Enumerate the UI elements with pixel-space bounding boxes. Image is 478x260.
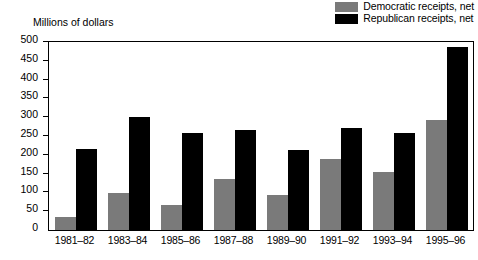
y-tick-label: 50 xyxy=(26,203,38,214)
bar-group xyxy=(314,42,367,230)
bar-republican xyxy=(447,47,468,230)
bar-republican xyxy=(76,149,97,230)
chart-legend: Democratic receipts, net Republican rece… xyxy=(335,1,474,24)
y-tick-label: 150 xyxy=(20,166,38,177)
x-tick-label: 1991–92 xyxy=(313,234,366,247)
x-tick-label: 1993–94 xyxy=(366,234,419,247)
bar-democratic xyxy=(55,217,76,230)
y-tick-label: 0 xyxy=(32,222,38,233)
y-axis-title: Millions of dollars xyxy=(33,16,114,28)
legend-item-republican: Republican receipts, net xyxy=(335,13,474,24)
bars-container xyxy=(49,42,473,230)
bar-republican xyxy=(341,128,362,230)
x-tick-label: 1995–96 xyxy=(419,234,472,247)
y-axis: 050100150200250300350400450500 xyxy=(0,41,48,229)
plot-area xyxy=(48,41,474,231)
bar-group xyxy=(367,42,420,230)
legend-swatch-democratic-icon xyxy=(335,2,358,12)
bar-group xyxy=(261,42,314,230)
y-tick-label: 400 xyxy=(20,72,38,83)
y-tick-label: 450 xyxy=(20,53,38,64)
bar-democratic xyxy=(108,193,129,230)
bar-republican xyxy=(394,133,415,230)
bar-chart-figure: Democratic receipts, net Republican rece… xyxy=(0,0,478,260)
y-tick-label: 200 xyxy=(20,147,38,158)
legend-label-republican: Republican receipts, net xyxy=(363,13,473,24)
bar-republican xyxy=(129,117,150,230)
y-tick-label: 300 xyxy=(20,109,38,120)
bar-republican xyxy=(182,133,203,230)
bar-democratic xyxy=(320,159,341,230)
y-tick-label: 100 xyxy=(20,184,38,195)
y-tick-label: 500 xyxy=(20,34,38,45)
legend-item-democratic: Democratic receipts, net xyxy=(335,1,474,12)
bar-democratic xyxy=(267,195,288,230)
bar-democratic xyxy=(161,205,182,230)
x-axis: 1981–821983–841985–861987–881989–901991–… xyxy=(48,234,472,250)
bar-democratic xyxy=(426,120,447,230)
bar-republican xyxy=(288,150,309,230)
bar-group xyxy=(420,42,473,230)
bar-group xyxy=(155,42,208,230)
y-tick-label: 250 xyxy=(20,128,38,139)
x-tick-label: 1989–90 xyxy=(260,234,313,247)
legend-label-democratic: Democratic receipts, net xyxy=(363,1,474,12)
bar-democratic xyxy=(373,172,394,230)
bar-democratic xyxy=(214,179,235,230)
x-tick-label: 1983–84 xyxy=(101,234,154,247)
x-tick-label: 1987–88 xyxy=(207,234,260,247)
legend-swatch-republican-icon xyxy=(335,14,358,24)
y-tick-label: 350 xyxy=(20,90,38,101)
x-tick-label: 1985–86 xyxy=(154,234,207,247)
bar-group xyxy=(49,42,102,230)
bar-group xyxy=(208,42,261,230)
bar-group xyxy=(102,42,155,230)
bar-republican xyxy=(235,130,256,230)
x-tick-label: 1981–82 xyxy=(48,234,101,247)
